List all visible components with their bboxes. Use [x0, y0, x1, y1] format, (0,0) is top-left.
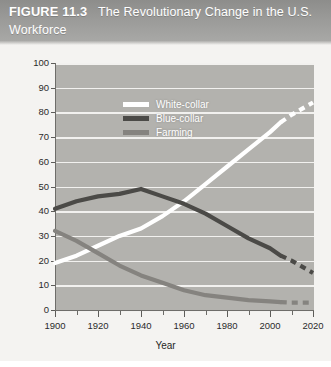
- x-tick-mark-minor: [249, 311, 250, 315]
- gridline: [56, 63, 314, 65]
- legend-swatch: [123, 102, 149, 107]
- x-tick-label: 1980: [204, 320, 250, 331]
- x-axis-title: Year: [0, 340, 331, 351]
- x-tick-mark: [313, 311, 314, 317]
- x-tick-mark-minor: [77, 311, 78, 315]
- legend-label: Blue-collar: [156, 113, 203, 124]
- x-tick-label: 1900: [32, 320, 78, 331]
- x-tick-mark: [141, 311, 142, 317]
- y-tick-mark: [51, 88, 55, 89]
- figure-number: FIGURE 11.3: [9, 4, 87, 19]
- x-tick-label: 1920: [75, 320, 121, 331]
- y-tick-label: 0: [9, 304, 49, 315]
- x-tick-label: 1940: [118, 320, 164, 331]
- gridline: [56, 236, 314, 238]
- chart-legend: White-collarBlue-collarFarming: [118, 94, 245, 142]
- plot-area: White-collarBlue-collarFarming: [55, 63, 314, 310]
- legend-swatch: [123, 130, 149, 135]
- y-tick-mark: [51, 285, 55, 286]
- y-tick-mark: [51, 187, 55, 188]
- x-tick-label: 2020: [290, 320, 331, 331]
- legend-label: Farming: [156, 127, 193, 138]
- chart: Percentage White-collarBlue-collarFarmin…: [0, 45, 331, 367]
- y-tick-label: 70: [9, 131, 49, 142]
- y-tick-label: 50: [9, 181, 49, 192]
- y-tick-label: 40: [9, 205, 49, 216]
- y-tick-mark: [51, 261, 55, 262]
- y-tick-mark: [51, 236, 55, 237]
- x-tick-mark-minor: [206, 311, 207, 315]
- gridline: [56, 187, 314, 189]
- legend-item: White-collar: [123, 97, 241, 111]
- gridline: [56, 211, 314, 213]
- y-tick-label: 20: [9, 255, 49, 266]
- figure-title-banner: FIGURE 11.3 The Revolutionary Change in …: [0, 0, 331, 41]
- gridline: [56, 285, 314, 287]
- figure-container: FIGURE 11.3 The Revolutionary Change in …: [0, 0, 331, 367]
- x-tick-mark: [270, 311, 271, 317]
- x-tick-mark-minor: [163, 311, 164, 315]
- legend-swatch: [123, 116, 149, 121]
- x-tick-label: 2000: [247, 320, 293, 331]
- y-tick-mark: [51, 63, 55, 64]
- page-bottom-margin: [0, 361, 331, 367]
- y-tick-label: 80: [9, 106, 49, 117]
- x-tick-mark: [55, 311, 56, 317]
- y-tick-mark: [51, 162, 55, 163]
- y-tick-mark: [51, 137, 55, 138]
- y-tick-label: 100: [9, 57, 49, 68]
- y-tick-label: 90: [9, 82, 49, 93]
- x-tick-mark: [184, 311, 185, 317]
- x-tick-mark-minor: [120, 311, 121, 315]
- y-tick-label: 10: [9, 279, 49, 290]
- x-tick-mark: [227, 311, 228, 317]
- y-tick-mark: [51, 112, 55, 113]
- legend-label: White-collar: [156, 99, 209, 110]
- gridline: [56, 88, 314, 90]
- x-tick-label: 1960: [161, 320, 207, 331]
- y-tick-mark: [51, 211, 55, 212]
- x-tick-mark-minor: [292, 311, 293, 315]
- legend-item: Farming: [123, 125, 241, 139]
- y-tick-label: 30: [9, 230, 49, 241]
- gridline: [56, 162, 314, 164]
- y-tick-label: 60: [9, 156, 49, 167]
- gridline: [56, 261, 314, 263]
- figure-title-line: FIGURE 11.3 The Revolutionary Change in …: [9, 3, 323, 39]
- x-tick-mark: [98, 311, 99, 317]
- legend-item: Blue-collar: [123, 111, 241, 125]
